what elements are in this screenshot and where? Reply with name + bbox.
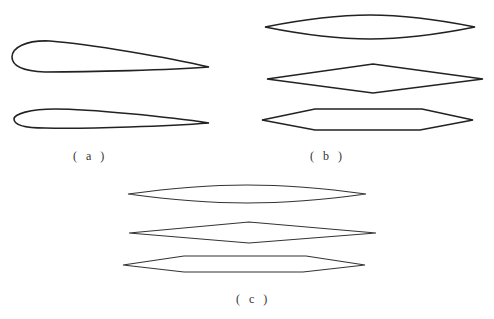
- panel-a-label: ( a ): [73, 149, 107, 164]
- panel-a: [12, 41, 209, 128]
- biconvex-lens-shape-c: [128, 185, 366, 203]
- panel-b-label: ( b ): [310, 149, 345, 164]
- thick-airfoil-shape: [12, 41, 209, 72]
- thin-airfoil-shape: [14, 109, 209, 128]
- biconvex-lens-shape: [265, 15, 475, 39]
- double-wedge-shape: [267, 64, 483, 93]
- hexagonal-shape: [262, 109, 473, 130]
- panel-c: [123, 185, 376, 272]
- double-wedge-shape-c: [129, 222, 376, 243]
- panel-c-label: ( c ): [236, 292, 270, 307]
- hexagonal-shape-c: [123, 256, 365, 272]
- panel-b: [262, 15, 483, 130]
